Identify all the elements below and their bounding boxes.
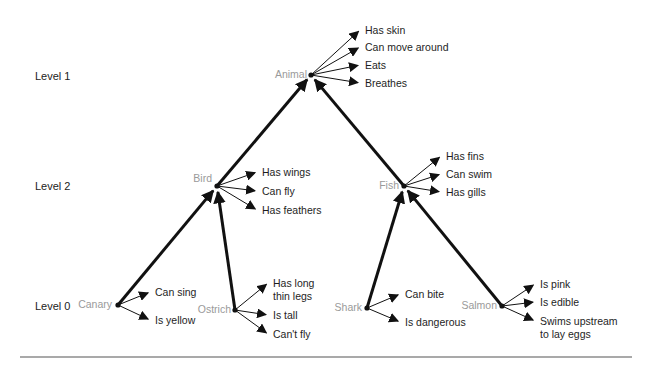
property-arrow [118, 305, 148, 319]
semantic-network-diagram: Level 1Level 2Level 0 Has skinCan move a… [0, 0, 651, 369]
property-label-ostrich: Has longthin legs [273, 277, 315, 302]
isa-links [118, 80, 502, 310]
level-label: Level 1 [35, 70, 70, 82]
property-label-ostrich: Is tall [273, 309, 298, 321]
property-arrow [311, 48, 358, 75]
property-label-fish: Has gills [446, 186, 486, 198]
level-label: Level 2 [35, 180, 70, 192]
property-arrow [235, 310, 266, 333]
node-animal: Animal [275, 68, 314, 80]
property-arrow [404, 175, 439, 186]
node-label-shark: Shark [335, 301, 363, 313]
property-label-bird: Has wings [262, 166, 310, 178]
node-shark: Shark [335, 301, 370, 313]
property-label-shark: Can bite [405, 288, 444, 300]
property-label-animal: Breathes [365, 77, 407, 89]
property-label-canary: Is yellow [155, 314, 196, 326]
node-label-salmon: Salmon [461, 299, 497, 311]
property-arrow [217, 186, 255, 191]
node-canary: Canary [78, 298, 120, 310]
node-fish: Fish [379, 179, 406, 191]
property-label-fish: Has fins [446, 150, 484, 162]
isa-arrow-fish-to-animal [315, 80, 404, 186]
property-label-animal: Has skin [365, 24, 405, 36]
property-label-canary: Can sing [155, 286, 197, 298]
node-label-fish: Fish [379, 179, 399, 191]
property-label-animal: Can move around [365, 41, 449, 53]
isa-arrow-shark-to-fish [367, 192, 402, 308]
level-labels: Level 1Level 2Level 0 [35, 70, 70, 312]
property-label-salmon: Is pink [540, 278, 571, 290]
node-label-animal: Animal [275, 68, 307, 80]
property-label-salmon: Swims upstreamto lay eggs [540, 315, 618, 340]
property-label-shark: Is dangerous [405, 316, 466, 328]
node-dot [364, 305, 369, 310]
property-label-salmon: Is edible [540, 296, 579, 308]
node-label-canary: Canary [78, 298, 113, 310]
property-label-bird: Can fly [262, 185, 295, 197]
isa-arrow-ostrich-to-bird [218, 192, 235, 310]
node-dot [115, 302, 120, 307]
level-label: Level 0 [35, 300, 70, 312]
node-label-ostrich: Ostrich [198, 303, 231, 315]
property-label-animal: Eats [365, 59, 386, 71]
node-dot [308, 72, 313, 77]
property-arrow [217, 186, 255, 209]
property-arrow [311, 65, 358, 75]
property-arrow [502, 306, 533, 320]
property-label-bird: Has feathers [262, 204, 322, 216]
property-arrow [404, 157, 439, 186]
node-label-bird: Bird [193, 172, 212, 184]
node-ostrich: Ostrich [198, 303, 238, 315]
property-arrow [235, 284, 266, 310]
node-dot [232, 307, 237, 312]
node-bird: Bird [193, 172, 219, 189]
property-label-ostrich: Can't fly [273, 328, 311, 340]
node-dot [401, 183, 406, 188]
property-arrow [367, 308, 398, 321]
node-dot [499, 303, 504, 308]
property-label-fish: Can swim [446, 168, 492, 180]
node-dot [214, 183, 219, 188]
property-arrow [311, 31, 359, 75]
